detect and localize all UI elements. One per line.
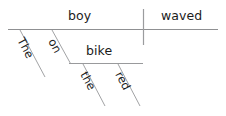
word-subject: boy: [68, 10, 91, 23]
word-prepositional-object: bike: [86, 45, 112, 58]
sentence-diagram: boy waved The on bike the red: [0, 0, 226, 116]
word-verb: waved: [161, 10, 202, 23]
